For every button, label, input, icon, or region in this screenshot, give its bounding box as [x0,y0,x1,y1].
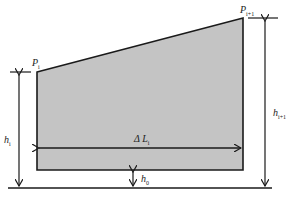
label-p-i1: Pi+1 [240,5,254,17]
label-h-i: hi [4,135,11,147]
label-h-0: h0 [141,174,149,186]
label-h-i1: hi+1 [273,108,286,120]
label-p-i: Pi [32,58,40,70]
trapezoid-diagram [0,0,288,200]
label-delta-l: Δ Li [134,134,149,146]
shaded-region [37,18,243,170]
